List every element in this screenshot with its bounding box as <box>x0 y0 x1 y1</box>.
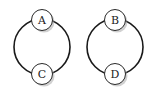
component-right: B D <box>87 10 143 87</box>
diagram-canvas: A C B D <box>0 0 155 95</box>
node-d-label: D <box>111 68 120 81</box>
node-a: A <box>32 10 55 33</box>
node-a-label: A <box>37 14 47 27</box>
node-c: C <box>32 64 55 87</box>
node-d: D <box>105 64 128 87</box>
node-b: B <box>105 10 128 33</box>
node-c-label: C <box>38 68 46 81</box>
node-b-label: B <box>111 14 119 27</box>
component-left: A C <box>14 10 70 87</box>
